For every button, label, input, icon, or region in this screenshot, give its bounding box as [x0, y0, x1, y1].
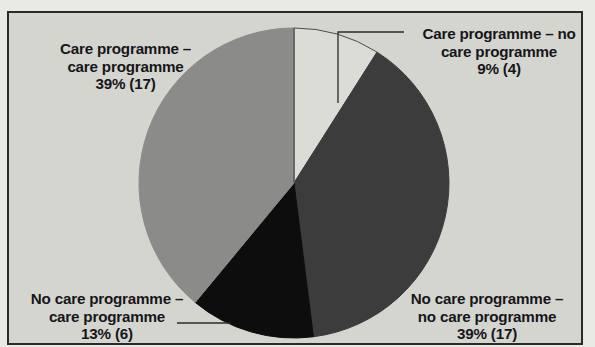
- slice-label-line-2: no care programme: [387, 308, 583, 326]
- slice-label-value: 39% (17): [387, 325, 583, 343]
- slice-label-line-1: Care programme –: [23, 40, 228, 58]
- pie-chart-figure: Care programme – care programme 39% (17)…: [0, 0, 595, 347]
- slice-label-line-1: Care programme – no: [404, 25, 583, 43]
- slice-label-care-programme-no-care-programme: Care programme – no care programme 9% (4…: [404, 25, 583, 78]
- slice-label-line-2: care programme: [23, 58, 228, 76]
- slice-label-value: 9% (4): [404, 60, 583, 78]
- chart-frame: Care programme – care programme 39% (17)…: [7, 11, 583, 345]
- slice-label-line-2: care programme: [7, 308, 207, 326]
- slice-label-line-1: No care programme –: [387, 290, 583, 308]
- slice-label-care-programme-care-programme: Care programme – care programme 39% (17): [23, 40, 228, 93]
- slice-label-value: 13% (6): [7, 325, 207, 343]
- slice-label-line-1: No care programme –: [7, 290, 207, 308]
- plot-area: Care programme – care programme 39% (17)…: [9, 13, 581, 343]
- slice-label-no-care-programme-no-care-programme: No care programme – no care programme 39…: [387, 290, 583, 343]
- slice-label-line-2: care programme: [404, 43, 583, 61]
- slice-label-value: 39% (17): [23, 75, 228, 93]
- slice-label-no-care-programme-care-programme: No care programme – care programme 13% (…: [7, 290, 207, 343]
